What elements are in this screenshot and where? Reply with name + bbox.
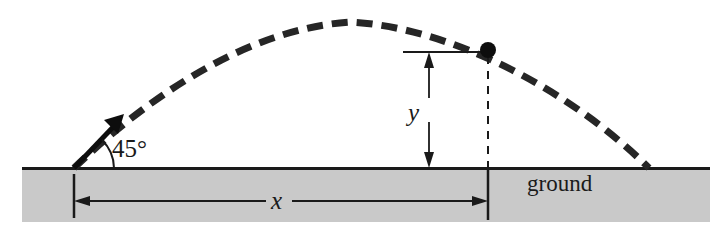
- ground-region: [22, 169, 710, 222]
- projectile-point-marker: [480, 42, 496, 58]
- projectile-motion-figure: 45° x y ground: [0, 0, 725, 231]
- horizontal-distance-label: x: [271, 188, 282, 213]
- y-dimension-line: [424, 52, 434, 168]
- launch-angle-label: 45°: [112, 136, 147, 161]
- vertical-height-label: y: [408, 100, 419, 125]
- figure-canvas: [0, 0, 725, 231]
- trajectory-path: [74, 22, 649, 168]
- ground-label: ground: [527, 172, 592, 195]
